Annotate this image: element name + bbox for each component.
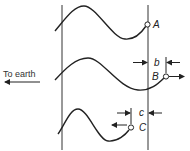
conductor-wave-diagram: A B b C c To earth <box>0 0 190 151</box>
dimension-b-label: b <box>154 57 160 68</box>
point-c-marker <box>128 125 133 130</box>
point-a-marker <box>145 22 150 27</box>
dimension-c-label: c <box>139 107 144 118</box>
point-a-label: A <box>152 19 160 30</box>
to-earth-label: To earth <box>3 69 36 79</box>
wave-a <box>55 6 146 39</box>
point-b-marker <box>163 74 168 79</box>
point-b-label: B <box>152 71 159 82</box>
point-c-label: C <box>139 122 147 133</box>
